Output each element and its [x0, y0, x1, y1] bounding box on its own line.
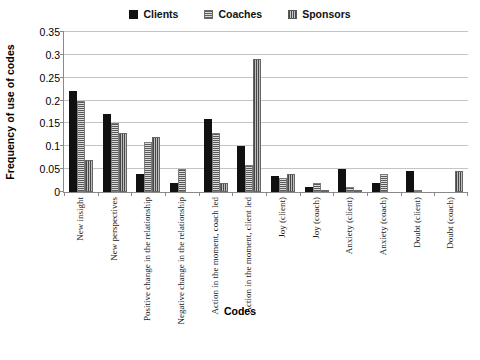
bar-groups: [64, 32, 468, 192]
bar-clients: [170, 183, 178, 192]
x-axis-category: Joy (coach): [299, 196, 333, 301]
x-axis-category: Doubt (client): [400, 196, 434, 301]
bar-coaches: [346, 187, 354, 192]
x-axis-category: Positive change in the relationship: [130, 196, 164, 301]
x-axis-category-label: Anxiety (coach): [378, 197, 388, 255]
bar-coaches: [380, 174, 388, 192]
x-axis-category-label: Positive change in the relationship: [142, 197, 152, 321]
legend-label-clients: Clients: [143, 9, 178, 20]
bar-clients: [338, 169, 346, 192]
chart-legend: Clients Coaches Sponsors: [0, 9, 480, 20]
bar-clients: [372, 183, 380, 192]
x-axis-category: Negative change in the relationship: [164, 196, 198, 301]
bar-clients: [103, 114, 111, 192]
bar-sponsors: [119, 133, 127, 192]
x-axis-category-label: Doubt (client): [412, 197, 422, 248]
y-axis-title-text: Frequency of use of codes: [4, 44, 16, 180]
bar-coaches: [245, 165, 253, 192]
bar-coaches: [178, 169, 186, 192]
y-axis-tick-label: 0.15: [40, 117, 60, 129]
bar-group: [367, 32, 401, 192]
figure: Clients Coaches Sponsors Frequency of us…: [0, 0, 480, 360]
x-axis-category: Doubt (coach): [433, 196, 467, 301]
bar-group: [333, 32, 367, 192]
y-axis-tick-label: 0: [54, 186, 60, 198]
bar-sponsors: [85, 160, 93, 192]
bar-sponsors: [354, 190, 362, 192]
x-axis-category-label: Action in the moment, client led: [243, 197, 253, 313]
x-axis-category-label: New perspectives: [109, 197, 119, 261]
x-axis-category-label: Anxiety (client): [344, 197, 354, 254]
bar-group: [232, 32, 266, 192]
bar-group: [266, 32, 300, 192]
bar-clients: [406, 171, 414, 192]
x-axis-category-label: Action in the moment, coach led: [210, 197, 220, 314]
bar-sponsors: [455, 171, 463, 192]
y-axis-tick-label: 0.2: [45, 95, 60, 107]
x-axis-category: Anxiety (coach): [366, 196, 400, 301]
bar-clients: [204, 119, 212, 192]
y-axis-tick-label: 0.3: [45, 49, 60, 61]
bar-clients: [305, 187, 313, 192]
x-axis-category-label: New insight: [75, 197, 85, 241]
bar-sponsors: [220, 183, 228, 192]
legend-item-clients: Clients: [129, 9, 178, 20]
bar-coaches: [77, 101, 85, 192]
legend-label-coaches: Coaches: [218, 9, 262, 20]
bar-coaches: [279, 178, 287, 192]
legend-label-sponsors: Sponsors: [302, 9, 350, 20]
bar-group: [131, 32, 165, 192]
bar-clients: [69, 91, 77, 192]
y-axis-tick-label: 0.05: [40, 163, 60, 175]
bar-group: [199, 32, 233, 192]
x-axis-category-label: Joy (coach): [311, 197, 321, 239]
bar-group: [434, 32, 468, 192]
legend-swatch-coaches: [204, 10, 213, 19]
x-axis-title: Codes: [0, 305, 480, 317]
bar-coaches: [414, 190, 422, 192]
bar-coaches: [212, 133, 220, 192]
x-axis-category: New perspectives: [97, 196, 131, 301]
x-axis-category: Joy (client): [265, 196, 299, 301]
bar-group: [165, 32, 199, 192]
plot-area: 00.050.10.150.20.250.30.35: [63, 32, 468, 193]
x-axis-category-label: Doubt (coach): [445, 197, 455, 249]
x-axis-category-labels: New insightNew perspectivesPositive chan…: [63, 196, 467, 301]
bar-clients: [271, 176, 279, 192]
bar-clients: [237, 146, 245, 192]
bar-group: [64, 32, 98, 192]
legend-swatch-clients: [129, 10, 138, 19]
bar-coaches: [313, 183, 321, 192]
x-axis-category-label: Joy (client): [277, 197, 287, 238]
legend-swatch-sponsors: [288, 10, 297, 19]
y-axis-tick-label: 0.35: [40, 26, 60, 38]
x-axis-category: Action in the moment, client led: [231, 196, 265, 301]
figure-caption: [0, 348, 480, 358]
legend-item-coaches: Coaches: [204, 9, 262, 20]
x-axis-tick-mark: [467, 192, 468, 196]
legend-item-sponsors: Sponsors: [288, 9, 350, 20]
y-axis-tick-label: 0.25: [40, 72, 60, 84]
x-axis-category: Action in the moment, coach led: [198, 196, 232, 301]
bar-group: [300, 32, 334, 192]
bar-clients: [136, 174, 144, 192]
bar-coaches: [111, 123, 119, 192]
bar-group: [98, 32, 132, 192]
bar-group: [401, 32, 435, 192]
bar-coaches: [144, 142, 152, 192]
bar-sponsors: [152, 137, 160, 192]
y-axis-title: Frequency of use of codes: [2, 32, 18, 192]
x-axis-category: Anxiety (client): [332, 196, 366, 301]
y-axis-tick-label: 0.1: [45, 140, 60, 152]
bar-sponsors: [253, 59, 261, 192]
x-axis-category: New insight: [63, 196, 97, 301]
bar-sponsors: [287, 174, 295, 192]
bar-sponsors: [321, 190, 329, 192]
